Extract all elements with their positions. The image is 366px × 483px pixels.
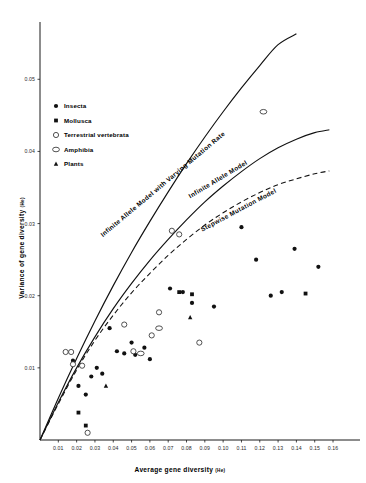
data-point (280, 290, 284, 294)
legend-marker (53, 147, 60, 152)
data-point (131, 349, 136, 354)
x-tick-label: 0.11 (236, 445, 246, 451)
x-tick-label: 0.06 (145, 445, 156, 451)
legend-item-plants: Plants (54, 160, 84, 167)
data-point (80, 363, 85, 368)
data-point (177, 232, 182, 237)
data-point (197, 340, 202, 345)
model-curve-label: Infinite Allele Model (187, 159, 248, 200)
data-point (212, 304, 216, 308)
x-tick-group: 0.010.020.030.040.050.060.070.080.090.10… (53, 440, 338, 451)
series-terrestrial-vertebrata (63, 228, 202, 435)
x-axis-title: Average gene diversity (He) (135, 466, 226, 474)
data-point (316, 265, 320, 269)
scatter-plot: 0.010.020.030.040.050.060.070.080.090.10… (0, 0, 366, 483)
data-point (122, 351, 126, 355)
data-point (89, 374, 93, 378)
legend-marker (54, 119, 58, 123)
data-point (137, 351, 144, 356)
axes-group (40, 22, 360, 440)
y-tick-label: 0.01 (25, 365, 36, 371)
y-tick-label: 0.02 (25, 293, 36, 299)
legend-item-terrestrial-vertebrata: Terrestrial vertebrata (53, 131, 129, 138)
legend-label: Amphibia (64, 146, 94, 153)
x-tick-label: 0.07 (163, 445, 174, 451)
data-point (76, 384, 80, 388)
data-point (129, 341, 133, 345)
data-point (122, 322, 127, 327)
data-point (181, 290, 185, 294)
x-tick-label: 0.12 (255, 445, 266, 451)
x-tick-label: 0.08 (181, 445, 192, 451)
x-tick-label: 0.16 (328, 445, 339, 451)
model-curve (40, 34, 296, 440)
series-insecta (71, 225, 321, 397)
data-point (100, 372, 104, 376)
data-point (148, 357, 152, 361)
x-tick-label: 0.13 (273, 445, 284, 451)
data-point (254, 258, 258, 262)
legend-label: Mollusca (64, 117, 92, 124)
data-point (95, 366, 99, 370)
data-point (149, 333, 154, 338)
legend-label: Terrestrial vertebrata (64, 131, 129, 138)
data-point (269, 294, 273, 298)
legend-item-insecta: Insecta (54, 102, 87, 109)
y-tick-label: 0.05 (25, 76, 36, 82)
data-point (292, 247, 296, 251)
data-point (70, 362, 75, 367)
data-point (104, 383, 108, 387)
data-point (84, 392, 88, 396)
y-axis-title-unit: (He) (20, 197, 25, 207)
legend-item-mollusca: Mollusca (54, 117, 92, 124)
data-point (260, 109, 267, 114)
legend-item-amphibia: Amphibia (53, 146, 94, 153)
model-curves-group (40, 34, 329, 440)
x-tick-label: 0.04 (108, 445, 119, 451)
data-point (304, 292, 308, 296)
figure-container: 0.010.020.030.040.050.060.070.080.090.10… (0, 0, 366, 483)
data-point (107, 326, 111, 330)
model-curve (40, 171, 329, 440)
x-axis-title-unit: (He) (215, 468, 225, 473)
x-tick-label: 0.15 (309, 445, 320, 451)
model-curve (40, 130, 329, 440)
y-axis-title: Variance of gene diversity (He) (18, 197, 26, 299)
model-curve-labels-group: Infinite Allele Model with Varying Mutat… (99, 130, 278, 239)
x-tick-label: 0.09 (200, 445, 211, 451)
data-point (142, 346, 146, 350)
x-tick-label: 0.10 (218, 445, 229, 451)
data-point (63, 349, 68, 354)
legend-label: Plants (64, 160, 84, 167)
legend-marker (54, 104, 58, 108)
x-tick-label: 0.01 (53, 445, 64, 451)
data-point (69, 349, 74, 354)
x-tick-label: 0.02 (71, 445, 82, 451)
data-point (85, 430, 90, 435)
data-point (190, 292, 194, 296)
legend-marker (54, 162, 58, 166)
data-point (156, 310, 161, 315)
data-point (190, 301, 194, 305)
data-point (188, 315, 192, 319)
x-tick-label: 0.05 (126, 445, 137, 451)
x-tick-label: 0.14 (291, 445, 302, 451)
data-point (169, 228, 174, 233)
data-point (177, 290, 181, 294)
x-axis-title-text: Average gene diversity (He) (135, 466, 226, 474)
data-point (84, 424, 88, 428)
y-axis-title-text: Variance of gene diversity (He) (18, 197, 26, 299)
data-point (239, 225, 243, 229)
data-point (115, 349, 119, 353)
y-tick-group: 0.010.020.030.040.05 (25, 76, 41, 371)
data-point (77, 411, 81, 415)
y-tick-label: 0.04 (25, 148, 36, 154)
data-point (156, 326, 163, 331)
x-tick-label: 0.03 (90, 445, 101, 451)
model-curve-label: Stepwise Mutation Model (199, 187, 277, 234)
legend: InsectaMolluscaTerrestrial vertebrataAmp… (53, 102, 130, 167)
legend-marker (53, 132, 58, 137)
data-point (168, 286, 172, 290)
legend-label: Insecta (64, 102, 87, 109)
y-tick-label: 0.03 (25, 221, 36, 227)
